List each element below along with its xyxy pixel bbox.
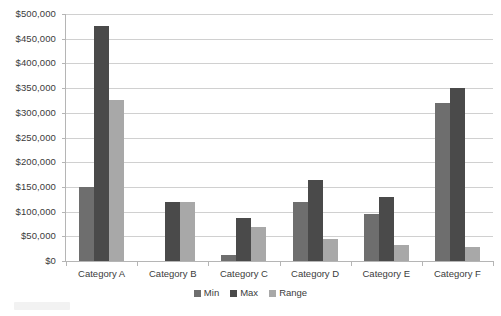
y-tick-mark bbox=[62, 14, 66, 15]
legend-item-min[interactable]: Min bbox=[194, 288, 219, 298]
y-tick-mark bbox=[62, 39, 66, 40]
legend-label: Min bbox=[204, 288, 219, 298]
y-tick-label: $500,000 bbox=[16, 9, 56, 19]
bar-max-category-e bbox=[379, 197, 394, 261]
legend-label: Max bbox=[240, 288, 258, 298]
y-tick-label: $50,000 bbox=[21, 232, 56, 242]
chart-legend: MinMaxRange bbox=[0, 286, 501, 300]
bar-max-category-c bbox=[236, 218, 251, 261]
bar-group bbox=[137, 14, 208, 261]
bar-groups bbox=[66, 14, 493, 261]
bar-range-category-f bbox=[465, 247, 480, 261]
y-tick-mark bbox=[62, 63, 66, 64]
bar-group bbox=[208, 14, 279, 261]
legend-swatch-icon bbox=[269, 290, 276, 297]
bar-range-category-b bbox=[180, 202, 195, 261]
y-tick-mark bbox=[62, 138, 66, 139]
x-tick-label: Category B bbox=[137, 266, 208, 282]
bar-chart: $500,000$450,000$400,000$350,000$300,000… bbox=[0, 0, 501, 316]
x-tick-mark bbox=[493, 261, 494, 266]
bar-max-category-f bbox=[450, 88, 465, 261]
y-tick-label: $300,000 bbox=[16, 108, 56, 118]
plot-wrapper: $500,000$450,000$400,000$350,000$300,000… bbox=[0, 0, 501, 282]
y-tick-label: $100,000 bbox=[16, 207, 56, 217]
y-tick-label: $150,000 bbox=[16, 182, 56, 192]
bar-max-category-d bbox=[308, 180, 323, 262]
x-tick-label: Category A bbox=[66, 266, 137, 282]
bar-min-category-d bbox=[293, 202, 308, 261]
legend-item-max[interactable]: Max bbox=[230, 288, 258, 298]
bar-group bbox=[66, 14, 137, 261]
y-tick-label: $450,000 bbox=[16, 34, 56, 44]
y-tick-mark bbox=[62, 187, 66, 188]
x-axis-tick-labels: Category ACategory BCategory CCategory D… bbox=[66, 266, 493, 282]
bar-min-category-f bbox=[435, 103, 450, 261]
bar-range-category-c bbox=[251, 227, 266, 261]
y-tick-label: $350,000 bbox=[16, 83, 56, 93]
bar-group bbox=[351, 14, 422, 261]
bar-range-category-e bbox=[394, 245, 409, 261]
bar-group bbox=[280, 14, 351, 261]
legend-label: Range bbox=[279, 288, 307, 298]
legend-swatch-icon bbox=[194, 290, 201, 297]
bar-max-category-b bbox=[165, 202, 180, 261]
y-tick-label: $400,000 bbox=[16, 59, 56, 69]
y-tick-mark bbox=[62, 162, 66, 163]
y-tick-mark bbox=[62, 212, 66, 213]
legend-swatch-icon bbox=[230, 290, 237, 297]
plot-area bbox=[66, 14, 493, 261]
y-axis-tick-labels: $500,000$450,000$400,000$350,000$300,000… bbox=[0, 14, 62, 261]
y-tick-mark bbox=[62, 113, 66, 114]
bar-min-category-a bbox=[79, 187, 94, 261]
legend-item-range[interactable]: Range bbox=[269, 288, 307, 298]
bar-group bbox=[422, 14, 493, 261]
y-tick-mark bbox=[62, 88, 66, 89]
bar-range-category-d bbox=[323, 239, 338, 261]
y-tick-label: $200,000 bbox=[16, 157, 56, 167]
x-tick-label: Category C bbox=[208, 266, 279, 282]
bar-min-category-e bbox=[364, 214, 379, 261]
bar-range-category-a bbox=[109, 100, 124, 261]
x-tick-label: Category E bbox=[351, 266, 422, 282]
y-tick-mark bbox=[62, 236, 66, 237]
x-tick-label: Category F bbox=[422, 266, 493, 282]
x-tick-label: Category D bbox=[280, 266, 351, 282]
bar-max-category-a bbox=[94, 26, 109, 261]
scan-artifact bbox=[14, 302, 70, 310]
y-tick-label: $0 bbox=[45, 256, 56, 266]
y-tick-label: $250,000 bbox=[16, 133, 56, 143]
